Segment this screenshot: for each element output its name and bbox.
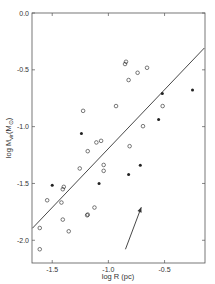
fit-line [32, 48, 204, 228]
y-tick-label: 0.0 [19, 10, 29, 17]
filled-circle-point [98, 182, 101, 185]
open-circle-point [124, 60, 128, 64]
open-circle-point [81, 109, 85, 113]
open-circle-point [78, 167, 82, 171]
open-circle-point [141, 124, 145, 128]
y-axis-label: log Mvir(M⊙) [4, 117, 14, 158]
arrow-annotation [125, 207, 141, 249]
open-circle-point [86, 149, 90, 153]
filled-circle-point [51, 184, 54, 187]
open-circle-point [128, 144, 132, 148]
scatter-chart: -1.5-1.0-0.5 0.0-0.5-1.0-1.5-2.0 log R (… [0, 0, 215, 284]
x-tick-label: -1.5 [46, 266, 58, 273]
regression-line [32, 48, 204, 228]
open-circle-point [95, 141, 99, 145]
open-circle-point [145, 66, 149, 70]
open-circle-point [60, 201, 64, 205]
arrow-head-icon [137, 207, 141, 212]
open-circle-point [67, 229, 71, 233]
filled-circle-point [139, 164, 142, 167]
open-circle-point [45, 198, 49, 202]
x-tick-label: -0.5 [159, 266, 171, 273]
data-points [38, 60, 194, 251]
open-circle-point [161, 104, 165, 108]
x-axis-label: log R (pc) [102, 272, 135, 281]
y-tick-label: -0.5 [17, 66, 29, 73]
y-tick-label: -2.0 [17, 237, 29, 244]
open-circle-point [61, 218, 65, 222]
filled-circle-point [191, 89, 194, 92]
open-circle-point [99, 139, 103, 143]
open-circle-point [38, 247, 42, 251]
x-axis-ticks: -1.5-1.0-0.5 [46, 13, 171, 273]
filled-circle-point [157, 118, 160, 121]
open-circle-point [114, 104, 118, 108]
arrow-shaft [125, 207, 141, 249]
open-circle-point [127, 78, 131, 82]
filled-circle-point [80, 132, 83, 135]
filled-circle-point [127, 173, 130, 176]
open-circle-point [102, 163, 106, 167]
open-circle-point [93, 206, 97, 210]
filled-circle-point [161, 92, 164, 95]
y-tick-label: -1.0 [17, 123, 29, 130]
open-circle-point [136, 71, 140, 75]
open-circle-point [102, 169, 106, 173]
y-axis-ticks: 0.0-0.5-1.0-1.5-2.0 [17, 10, 205, 244]
y-tick-label: -1.5 [17, 180, 29, 187]
open-circle-point [38, 226, 42, 230]
open-circle-point [123, 62, 127, 66]
